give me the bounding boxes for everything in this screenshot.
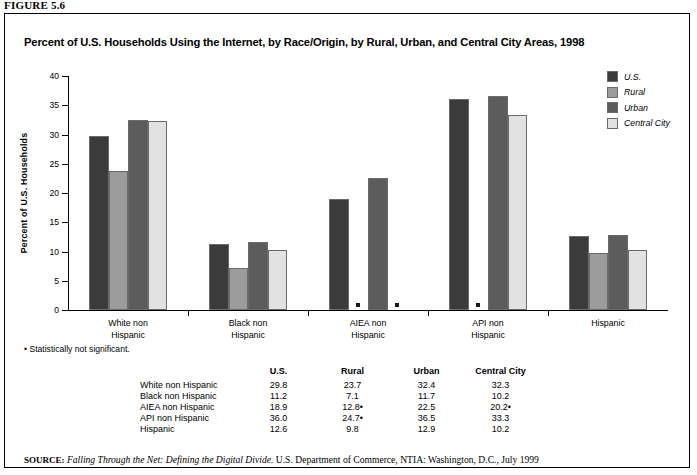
table-col-header: U.S.: [242, 366, 316, 379]
bar: [628, 250, 648, 310]
bar: [589, 253, 609, 310]
y-axis-line: [68, 76, 69, 310]
table-row: Black non Hispanic11.27.111.710.2: [140, 390, 538, 401]
bar: [368, 178, 388, 310]
y-axis-tick: [62, 252, 68, 253]
bar: [109, 171, 129, 310]
bar: [209, 244, 229, 310]
x-axis-tick: [428, 310, 429, 316]
bar: [248, 242, 268, 310]
plot-area: 0510152025303540 White nonHispanicBlack …: [68, 76, 668, 310]
table-row: Hispanic12.69.812.910.2: [140, 423, 538, 434]
table-cell: 22.5: [390, 401, 464, 412]
table-cell: 11.2: [242, 390, 316, 401]
y-axis-tick: [62, 281, 68, 282]
table-cell: 32.4: [390, 379, 464, 390]
y-axis-tick-label: 15: [49, 217, 59, 227]
x-axis-tick: [188, 310, 189, 316]
y-axis-title: Percent of U.S. Households: [17, 76, 31, 310]
table-row: API non Hispanic36.024.7•36.533.3: [140, 412, 538, 423]
y-axis-tick-label: 40: [49, 71, 59, 81]
y-axis-tick: [62, 135, 68, 136]
y-axis-tick: [62, 310, 68, 311]
y-axis-tick: [62, 76, 68, 77]
table-cell: 32.3: [464, 379, 538, 390]
table-corner-cell: [140, 366, 242, 379]
legend-label: Urban: [624, 103, 648, 113]
source-note: SOURCE: Falling Through the Net: Definin…: [24, 454, 674, 465]
legend-item: Central City: [607, 116, 670, 132]
suppressed-value-marker: [356, 303, 360, 307]
x-axis-tick: [548, 310, 549, 316]
table-cell: 33.3: [464, 412, 538, 423]
bar: [608, 235, 628, 310]
y-axis-tick-label: 30: [49, 130, 59, 140]
legend-item: Urban: [607, 100, 670, 116]
bar: [508, 115, 528, 310]
footnote: • Statistically not significant.: [24, 344, 130, 354]
table-cell: 36.5: [390, 412, 464, 423]
table-cell: 10.2: [464, 423, 538, 434]
bar: [569, 236, 589, 310]
source-rest: U.S. Department of Commerce, NTIA: Washi…: [273, 454, 539, 465]
x-axis-tick: [308, 310, 309, 316]
table-cell: 29.8: [242, 379, 316, 390]
table-col-header: Central City: [464, 366, 538, 379]
y-axis-tick: [62, 193, 68, 194]
table-cell: 12.8•: [316, 401, 390, 412]
table-cell: 12.9: [390, 423, 464, 434]
bar: [148, 121, 168, 310]
bar: [329, 199, 349, 310]
bar: [229, 268, 249, 310]
y-axis-title-text: Percent of U.S. Households: [19, 133, 29, 254]
suppressed-value-marker: [476, 303, 480, 307]
legend-item: U.S.: [607, 69, 670, 85]
bar: [268, 250, 288, 310]
legend-label: Rural: [624, 87, 645, 97]
suppressed-value-marker: [395, 303, 399, 307]
x-axis-line: [68, 310, 668, 311]
chart-title: Percent of U.S. Households Using the Int…: [24, 36, 664, 48]
table-cell: 18.9: [242, 401, 316, 412]
y-axis-tick-label: 10: [49, 247, 59, 257]
table-row-header: API non Hispanic: [140, 412, 242, 423]
y-axis-tick-label: 35: [49, 100, 59, 110]
legend-item: Rural: [607, 85, 670, 101]
x-axis-category-label: AIEA nonHispanic: [308, 318, 428, 341]
table-cell: 24.7•: [316, 412, 390, 423]
bar: [89, 136, 109, 310]
table-cell: 11.7: [390, 390, 464, 401]
source-title: Falling Through the Net: Defining the Di…: [67, 454, 273, 465]
table-col-header: Urban: [390, 366, 464, 379]
x-axis-category-label: White nonHispanic: [68, 318, 188, 341]
y-axis-tick-label: 25: [49, 159, 59, 169]
y-axis-tick-label: 0: [54, 305, 59, 315]
x-axis-category-label: Black nonHispanic: [188, 318, 308, 341]
y-axis-tick-label: 20: [49, 188, 59, 198]
y-axis-tick: [62, 222, 68, 223]
table-header-row: U.S. Rural Urban Central City: [140, 366, 538, 379]
x-axis-category-label: Hispanic: [548, 318, 668, 330]
figure-frame: Percent of U.S. Households Using the Int…: [4, 13, 690, 468]
legend-label: U.S.: [624, 72, 641, 82]
table-col-header: Rural: [316, 366, 390, 379]
legend-label: Central City: [624, 118, 670, 128]
table-row-header: Black non Hispanic: [140, 390, 242, 401]
data-table: U.S. Rural Urban Central City White non …: [140, 366, 538, 434]
y-axis-tick: [62, 164, 68, 165]
table-row-header: Hispanic: [140, 423, 242, 434]
bar: [128, 120, 148, 310]
y-axis-tick-label: 5: [54, 276, 59, 286]
table-cell: 20.2•: [464, 401, 538, 412]
legend-swatch-icon: [607, 87, 618, 98]
source-label: SOURCE:: [24, 455, 65, 465]
table-row-header: White non Hispanic: [140, 379, 242, 390]
table-row: AIEA non Hispanic18.912.8•22.520.2•: [140, 401, 538, 412]
x-axis-category-label: API nonHispanic: [428, 318, 548, 341]
table-cell: 12.6: [242, 423, 316, 434]
table-cell: 9.8: [316, 423, 390, 434]
bar: [488, 96, 508, 310]
table-row: White non Hispanic29.823.732.432.3: [140, 379, 538, 390]
legend-swatch-icon: [607, 71, 618, 82]
table-cell: 10.2: [464, 390, 538, 401]
